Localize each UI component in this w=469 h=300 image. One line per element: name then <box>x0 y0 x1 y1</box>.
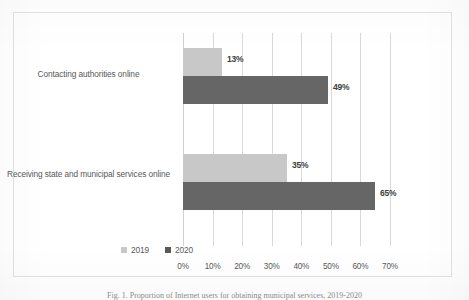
bar-value-label-2019-contacting-authorities-online: 13% <box>227 54 243 64</box>
bar-2020-receiving-state-and-municipal-services-online[interactable] <box>183 182 375 210</box>
chart-legend: 2019 2020 <box>121 245 193 255</box>
x-tick-70: 70% <box>382 262 398 271</box>
bar-2019-contacting-authorities-online[interactable] <box>183 48 222 76</box>
x-tick-10: 10% <box>205 262 221 271</box>
x-tick-0: 0% <box>177 262 188 271</box>
gridline-40 <box>301 33 302 246</box>
gridline-60 <box>360 33 361 246</box>
legend-item-2020[interactable]: 2020 <box>165 245 193 255</box>
legend-label-2020: 2020 <box>175 245 193 255</box>
figure-caption: Fig. 1. Proportion of Internet users for… <box>0 291 469 300</box>
bar-value-label-2019-receiving-state-and-municipal-services-online: 35% <box>292 160 308 170</box>
legend-label-2019: 2019 <box>131 245 149 255</box>
bar-value-label-2020-receiving-state-and-municipal-services-online: 65% <box>380 188 396 198</box>
legend-swatch-2019-icon <box>121 247 127 253</box>
category-label-contacting-authorities-online: Contacting authorities online <box>1 69 176 80</box>
category-label-receiving-state-and-municipal-services-online: Receiving state and municipal services o… <box>1 169 176 180</box>
x-tick-40: 40% <box>293 262 309 271</box>
gridline-20 <box>242 33 243 246</box>
legend-item-2019[interactable]: 2019 <box>121 245 149 255</box>
bar-value-label-2020-contacting-authorities-online: 49% <box>333 82 349 92</box>
x-axis-tick-labels: 0% 10% 20% 30% 40% 50% 60% 70% <box>183 262 390 276</box>
gridline-30 <box>272 33 273 246</box>
plot-area: 13% 49% Contacting authorities online 35… <box>183 33 390 246</box>
x-tick-30: 30% <box>264 262 280 271</box>
x-tick-20: 20% <box>234 262 250 271</box>
bar-2019-receiving-state-and-municipal-services-online[interactable] <box>183 154 287 182</box>
gridline-70 <box>390 33 391 246</box>
bar-2020-contacting-authorities-online[interactable] <box>183 76 328 104</box>
chart-frame: 13% 49% Contacting authorities online 35… <box>13 12 452 277</box>
x-tick-50: 50% <box>323 262 339 271</box>
gridline-50 <box>331 33 332 246</box>
x-tick-60: 60% <box>352 262 368 271</box>
legend-swatch-2020-icon <box>165 247 171 253</box>
